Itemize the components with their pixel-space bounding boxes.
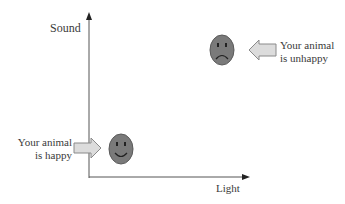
happy-label-line2: is happy: [14, 149, 72, 162]
sad-face-icon: [210, 35, 234, 65]
happy-label-line1: Your animal: [14, 136, 72, 149]
unhappy-label-line1: Your animal: [280, 39, 334, 52]
unhappy-label: Your animal is unhappy: [280, 39, 334, 65]
happy-label: Your animal is happy: [14, 136, 72, 162]
x-axis: [89, 174, 250, 180]
y-axis-label: Sound: [50, 22, 81, 35]
unhappy-label-line2: is unhappy: [280, 52, 334, 65]
left-arrow-icon: [249, 40, 276, 60]
right-arrow-icon: [74, 138, 101, 158]
x-axis-label: Light: [216, 182, 240, 195]
happy-face-icon: [109, 134, 133, 164]
